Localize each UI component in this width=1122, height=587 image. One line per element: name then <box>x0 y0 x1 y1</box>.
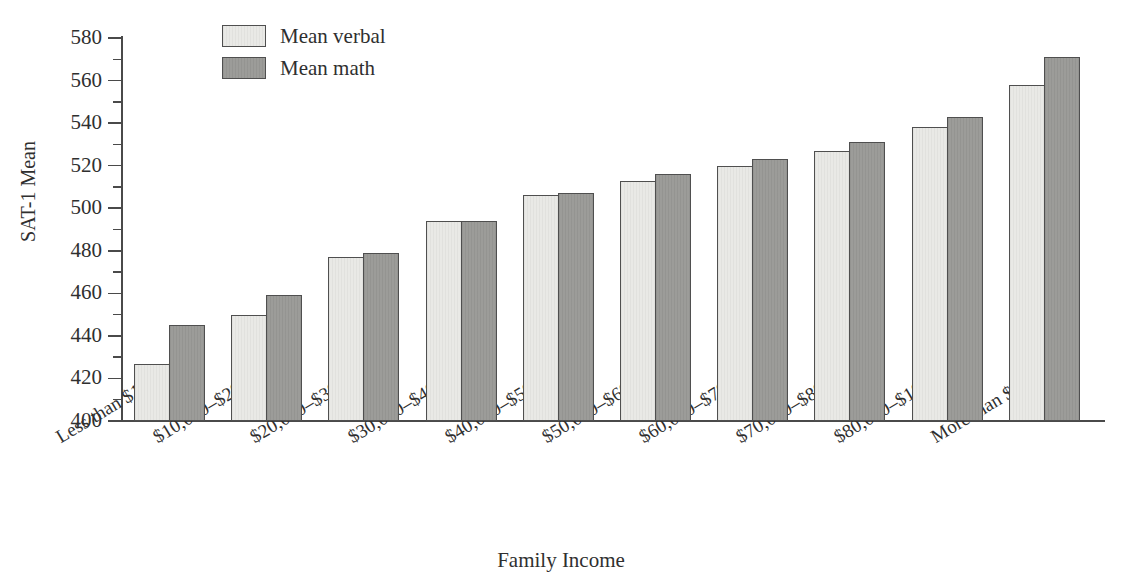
plot-area <box>122 38 1105 421</box>
bar-group <box>523 38 595 421</box>
y-tick-major <box>108 378 121 380</box>
bar-mean-math <box>849 142 885 421</box>
y-tick-label-wrap: 500 <box>40 197 102 218</box>
bar-group <box>328 38 400 421</box>
bar-mean-math <box>461 221 497 421</box>
bar-mean-verbal <box>814 151 850 421</box>
bar-mean-math <box>558 193 594 421</box>
y-tick-minor <box>113 271 121 273</box>
y-tick-minor <box>113 314 121 316</box>
legend-swatch-math <box>222 57 266 79</box>
bar-mean-verbal <box>1009 85 1045 421</box>
y-tick-label-wrap: 420 <box>40 367 102 388</box>
bar-mean-verbal <box>426 221 462 421</box>
y-tick-label-wrap: 520 <box>40 155 102 176</box>
bar-group <box>814 38 886 421</box>
sat-income-bar-chart: SAT-1 Mean 40042044046048050052054056058… <box>0 0 1122 587</box>
y-tick-major <box>108 165 121 167</box>
y-tick-label: 540 <box>71 112 103 133</box>
y-tick-label: 460 <box>71 282 103 303</box>
y-tick-major <box>108 37 121 39</box>
y-tick-minor <box>113 356 121 358</box>
y-tick-label-wrap: 440 <box>40 325 102 346</box>
bar-mean-math <box>266 295 302 421</box>
y-tick-major <box>108 293 121 295</box>
bar-mean-verbal <box>134 364 170 421</box>
y-tick-label: 500 <box>71 197 103 218</box>
y-axis-title: SAT-1 Mean <box>17 102 40 282</box>
y-tick-minor <box>113 186 121 188</box>
y-tick-label-wrap: 580 <box>40 27 102 48</box>
bar-mean-math <box>655 174 691 421</box>
y-tick-label: 560 <box>71 70 103 91</box>
x-axis-title: Family Income <box>0 548 1122 573</box>
y-tick-major <box>108 335 121 337</box>
y-tick-label-wrap: 460 <box>40 282 102 303</box>
y-tick-major <box>108 122 121 124</box>
y-tick-label: 480 <box>71 240 103 261</box>
bar-group <box>231 38 303 421</box>
y-tick-label: 440 <box>71 325 103 346</box>
bar-group <box>426 38 498 421</box>
bar-mean-math <box>947 117 983 421</box>
y-tick-major <box>108 80 121 82</box>
bar-mean-math <box>169 325 205 421</box>
y-tick-minor <box>113 229 121 231</box>
y-tick-label-wrap: 540 <box>40 112 102 133</box>
y-tick-label: 420 <box>71 367 103 388</box>
bar-group <box>717 38 789 421</box>
y-tick-label-wrap: 480 <box>40 240 102 261</box>
bar-group <box>912 38 984 421</box>
bar-mean-verbal <box>523 195 559 421</box>
bar-mean-verbal <box>912 127 948 421</box>
bar-mean-verbal <box>620 181 656 421</box>
y-tick-major <box>108 250 121 252</box>
bar-group <box>1009 38 1081 421</box>
bar-mean-verbal <box>328 257 364 421</box>
chart-legend: Mean verbalMean math <box>222 22 386 86</box>
y-tick-label: 520 <box>71 155 103 176</box>
y-tick-minor <box>113 101 121 103</box>
y-tick-minor <box>113 144 121 146</box>
bar-mean-math <box>1044 57 1080 421</box>
y-tick-major <box>108 420 121 422</box>
y-tick-label: 580 <box>71 27 103 48</box>
bar-group <box>620 38 692 421</box>
bar-mean-math <box>363 253 399 421</box>
legend-swatch-verbal <box>222 25 266 47</box>
bar-mean-verbal <box>231 315 267 421</box>
legend-item: Mean verbal <box>222 22 386 50</box>
bar-mean-verbal <box>717 166 753 421</box>
bar-mean-math <box>752 159 788 421</box>
legend-label: Mean math <box>280 56 375 81</box>
legend-label: Mean verbal <box>280 24 386 49</box>
y-tick-label-wrap: 560 <box>40 70 102 91</box>
legend-item: Mean math <box>222 54 386 82</box>
y-tick-major <box>108 207 121 209</box>
bar-group <box>134 38 206 421</box>
y-tick-minor <box>113 59 121 61</box>
